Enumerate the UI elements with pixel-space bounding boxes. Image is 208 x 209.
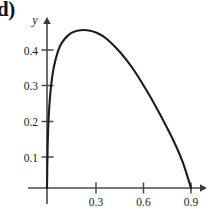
x-tick-label: 0.6: [136, 196, 151, 208]
y-tick-label: 0.1: [24, 152, 39, 164]
y-tick-label: 0.4: [24, 45, 39, 57]
x-axis-arrow-icon: [200, 184, 207, 192]
y-axis-arrow-icon: [43, 17, 51, 24]
x-tick-label: 0.9: [184, 196, 199, 208]
y-axis-label: y: [31, 13, 38, 27]
x-tick-label: 0.3: [89, 196, 104, 208]
data-curve: [47, 30, 191, 188]
plot-area: y 0.4 0.3 0.2 0.1 0.3 0.6 0.9: [0, 0, 208, 209]
y-tick-label: 0.3: [24, 80, 39, 92]
figure-panel: d) y 0.4 0.3 0.2 0.1 0.3 0.6 0.9: [0, 0, 208, 209]
y-tick-label: 0.2: [24, 116, 39, 128]
